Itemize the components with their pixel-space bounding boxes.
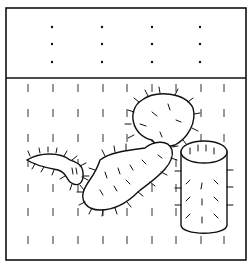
dot [101,43,103,45]
dot [101,26,103,28]
dot [151,43,153,45]
dot [199,26,201,28]
dot [151,26,153,28]
pad-cactus [27,87,200,216]
dot [199,61,201,63]
dot [51,43,53,45]
dot [101,61,103,63]
dot [51,61,53,63]
dot-grid [51,26,201,63]
dot [151,61,153,63]
dot [199,43,201,45]
cactus-illustration [0,0,250,266]
cylinder-cactus [175,141,233,233]
dot [51,26,53,28]
